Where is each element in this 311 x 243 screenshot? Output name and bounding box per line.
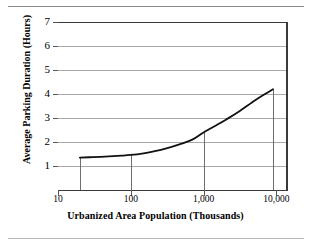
x-tick-label-10: 10 xyxy=(28,194,88,204)
y-tick-label-4: 4 xyxy=(28,88,50,99)
x-tick-label-100: 100 xyxy=(101,194,161,204)
y-tick-label-3: 3 xyxy=(28,112,50,123)
x-axis-title: Urbanized Area Population (Thousands) xyxy=(0,210,311,221)
x-axis-line xyxy=(58,190,288,191)
chart-figure: Average Parking Duration (Hours) 7654321… xyxy=(0,0,311,243)
y-tick-label-7: 7 xyxy=(28,16,50,27)
x-tick-label-1000: 1,000 xyxy=(174,194,234,204)
y-tick-label-1: 1 xyxy=(28,160,50,171)
y-tick-label-6: 6 xyxy=(28,40,50,51)
y-tick-label-2: 2 xyxy=(28,136,50,147)
plot-area xyxy=(58,22,287,190)
data-curve xyxy=(58,22,287,190)
y-tick-label-5: 5 xyxy=(28,64,50,75)
x-tick-label-10000: 10,000 xyxy=(246,194,306,204)
